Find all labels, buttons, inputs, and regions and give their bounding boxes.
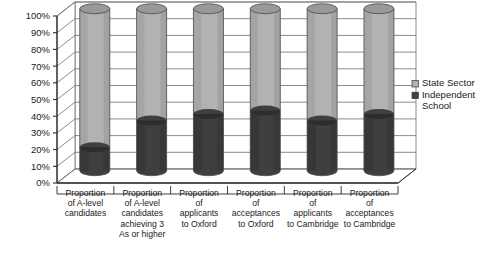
cylinder-shade-left: [364, 9, 372, 114]
legend-swatch: [412, 92, 418, 98]
cylinder-shade-right: [217, 9, 223, 114]
cylinder-top-cap: [137, 4, 167, 14]
bar-cylinder: [250, 4, 280, 176]
cylinder-shade-left: [364, 114, 373, 171]
cylinder-shade-right: [104, 9, 110, 148]
bar-cylinder: [193, 4, 223, 176]
cylinder-shade-left: [250, 9, 258, 111]
cylinder-top-cap: [193, 4, 223, 14]
cylinder-shade-right: [388, 9, 394, 114]
category-axis-label: Proportionof A-levelcandidates: [65, 188, 107, 218]
y-axis-tick-labels: 100%90%80%70%60%50%40%30%20%10%0%: [26, 10, 51, 188]
cylinder-shade-left: [250, 111, 259, 171]
y-axis-tick-label: 20%: [31, 144, 51, 155]
bar-cylinder: [364, 4, 394, 176]
category-axis-label: Proportionofapplicantsto Cambridge: [287, 188, 339, 229]
cylinder-shade-left: [307, 121, 316, 171]
cylinder-shade-right: [217, 114, 224, 171]
y-axis-tick-label: 30%: [31, 127, 51, 138]
bar-cylinder: [137, 4, 167, 176]
bar-cylinder: [307, 4, 337, 176]
category-axis-label: Proportionofacceptancesto Oxford: [232, 188, 280, 229]
y-axis-tick-label: 90%: [31, 27, 51, 38]
bar-cylinder: [80, 4, 110, 176]
category-axis-label: Proportionofapplicantsto Oxford: [179, 188, 219, 229]
cylinder-shade-right: [274, 9, 280, 111]
category-axis-labels: Proportionof A-levelcandidatesProportion…: [65, 188, 396, 239]
y-axis-tick-label: 10%: [31, 161, 51, 172]
y-axis-tick-label: 60%: [31, 77, 51, 88]
y-axis-tick-label: 0%: [36, 177, 50, 188]
cylinder-shade-right: [331, 121, 338, 171]
cylinder-shade-left: [307, 9, 315, 121]
y-axis-tick-label: 40%: [31, 111, 51, 122]
legend-label: IndependentSchool: [422, 89, 476, 112]
cylinder-shade-left: [193, 114, 202, 171]
category-axis-label: Proportionofacceptancesto Cambridge: [344, 188, 396, 229]
category-axis-ticks: [57, 186, 398, 194]
cylinder-shade-right: [387, 114, 394, 171]
cylinder-shade-left: [137, 121, 146, 171]
cylinder-shade-left: [193, 9, 201, 114]
cylinder-shade-right: [274, 111, 281, 171]
chart-container: 100%90%80%70%60%50%40%30%20%10%0% Propor…: [0, 0, 489, 259]
category-axis-label: Proportionof A-levelcandidatesachieving …: [119, 188, 165, 239]
plot-area-3d-walls: [57, 2, 416, 183]
cylinder-shade-right: [161, 9, 167, 121]
cylinder-shade-left: [80, 9, 88, 148]
cylinder-shade-right: [160, 121, 167, 171]
cylinder-top-cap: [364, 4, 394, 14]
legend-swatch: [412, 81, 418, 87]
cylinder-top-cap: [250, 4, 280, 14]
floor-wall: [57, 169, 416, 183]
stacked-cylinder-bar-chart: 100%90%80%70%60%50%40%30%20%10%0% Propor…: [0, 0, 489, 259]
cylinder-top-cap: [80, 4, 110, 14]
y-axis-tick-label: 70%: [31, 61, 51, 72]
chart-legend: State SectorIndependentSchool: [412, 77, 476, 111]
y-axis-tick-label: 80%: [31, 44, 51, 55]
cylinder-top-cap: [307, 4, 337, 14]
y-axis-tick-label: 50%: [31, 94, 51, 105]
cylinder-shade-left: [137, 9, 145, 121]
y-axis-tick-label: 100%: [26, 10, 51, 21]
cylinder-shade-right: [331, 9, 337, 121]
legend-label: State Sector: [422, 77, 476, 88]
